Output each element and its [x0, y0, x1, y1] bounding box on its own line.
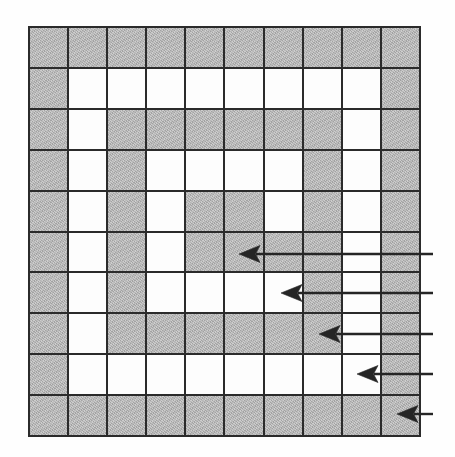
grid-cell-r1-c6 — [225, 28, 264, 69]
grid-cell-r5-c2 — [69, 192, 108, 233]
grid-cell-r2-c8 — [304, 69, 343, 110]
grid-cell-r4-c6 — [225, 151, 264, 192]
grid-cell-r8-c10 — [382, 314, 421, 355]
grid-cell-r9-c6 — [225, 355, 264, 396]
grid-cell-r4-c4 — [147, 151, 186, 192]
grid-cell-r3-c2 — [69, 110, 108, 151]
grid-cell-r5-c6 — [225, 192, 264, 233]
grid-cell-r7-c9 — [343, 273, 382, 314]
grid-cell-r6-c3 — [108, 233, 147, 274]
grid-cell-r10-c10 — [382, 396, 421, 437]
grid-cell-r3-c5 — [186, 110, 225, 151]
grid-cell-r6-c6 — [225, 233, 264, 274]
grid-cell-r1-c9 — [343, 28, 382, 69]
grid-cell-r7-c10 — [382, 273, 421, 314]
grid-cell-r3-c4 — [147, 110, 186, 151]
grid-cell-r6-c4 — [147, 233, 186, 274]
grid-cell-r2-c10 — [382, 69, 421, 110]
grid-cell-r1-c2 — [69, 28, 108, 69]
grid-cell-r8-c2 — [69, 314, 108, 355]
grid-cell-r7-c8 — [304, 273, 343, 314]
grid-cell-r1-c3 — [108, 28, 147, 69]
grid-cell-r4-c3 — [108, 151, 147, 192]
grid-cell-r8-c9 — [343, 314, 382, 355]
grid-container — [28, 26, 421, 437]
grid-cell-r10-c7 — [265, 396, 304, 437]
grid-cell-r1-c1 — [30, 28, 69, 69]
grid-cell-r7-c7 — [265, 273, 304, 314]
grid-cell-r8-c4 — [147, 314, 186, 355]
grid-cell-r2-c5 — [186, 69, 225, 110]
grid-cell-r8-c3 — [108, 314, 147, 355]
grid-cell-r3-c9 — [343, 110, 382, 151]
grid-cell-r5-c4 — [147, 192, 186, 233]
grid-cell-r3-c1 — [30, 110, 69, 151]
grid-cell-r7-c6 — [225, 273, 264, 314]
grid-cell-r9-c2 — [69, 355, 108, 396]
grid-cell-r1-c5 — [186, 28, 225, 69]
grid-cell-r10-c2 — [69, 396, 108, 437]
grid-cell-r3-c7 — [265, 110, 304, 151]
grid-cell-r9-c10 — [382, 355, 421, 396]
grid-cell-r10-c3 — [108, 396, 147, 437]
grid-cell-r6-c9 — [343, 233, 382, 274]
grid-cell-r1-c7 — [265, 28, 304, 69]
grid-cell-r9-c9 — [343, 355, 382, 396]
grid-cell-r2-c7 — [265, 69, 304, 110]
grid-cell-r8-c7 — [265, 314, 304, 355]
grid-cell-r6-c5 — [186, 233, 225, 274]
grid-cell-r1-c8 — [304, 28, 343, 69]
grid-cell-r2-c6 — [225, 69, 264, 110]
grid-cell-r4-c10 — [382, 151, 421, 192]
grid-cell-r9-c8 — [304, 355, 343, 396]
grid-cell-r5-c10 — [382, 192, 421, 233]
grid-cell-r10-c5 — [186, 396, 225, 437]
figure-canvas — [0, 0, 455, 457]
grid-cell-r8-c6 — [225, 314, 264, 355]
grid-cell-r6-c8 — [304, 233, 343, 274]
grid-cell-r9-c5 — [186, 355, 225, 396]
grid-cell-r2-c4 — [147, 69, 186, 110]
grid-cell-r4-c5 — [186, 151, 225, 192]
grid-cell-r4-c1 — [30, 151, 69, 192]
cell-grid — [28, 26, 421, 437]
grid-cell-r10-c8 — [304, 396, 343, 437]
grid-cell-r6-c1 — [30, 233, 69, 274]
grid-cell-r2-c1 — [30, 69, 69, 110]
grid-cell-r10-c1 — [30, 396, 69, 437]
grid-cell-r5-c7 — [265, 192, 304, 233]
grid-cell-r2-c2 — [69, 69, 108, 110]
grid-cell-r3-c8 — [304, 110, 343, 151]
grid-cell-r9-c7 — [265, 355, 304, 396]
grid-cell-r2-c9 — [343, 69, 382, 110]
grid-cell-r7-c1 — [30, 273, 69, 314]
grid-cell-r10-c4 — [147, 396, 186, 437]
grid-cell-r3-c10 — [382, 110, 421, 151]
grid-cell-r4-c8 — [304, 151, 343, 192]
grid-cell-r6-c7 — [265, 233, 304, 274]
grid-cell-r10-c6 — [225, 396, 264, 437]
grid-cell-r8-c8 — [304, 314, 343, 355]
grid-cell-r7-c4 — [147, 273, 186, 314]
grid-cell-r4-c7 — [265, 151, 304, 192]
grid-cell-r2-c3 — [108, 69, 147, 110]
grid-cell-r5-c9 — [343, 192, 382, 233]
grid-cell-r9-c3 — [108, 355, 147, 396]
grid-cell-r6-c10 — [382, 233, 421, 274]
grid-cell-r8-c1 — [30, 314, 69, 355]
grid-cell-r9-c4 — [147, 355, 186, 396]
grid-cell-r3-c6 — [225, 110, 264, 151]
grid-cell-r6-c2 — [69, 233, 108, 274]
grid-cell-r10-c9 — [343, 396, 382, 437]
grid-cell-r8-c5 — [186, 314, 225, 355]
grid-cell-r1-c10 — [382, 28, 421, 69]
grid-cell-r7-c2 — [69, 273, 108, 314]
grid-cell-r4-c2 — [69, 151, 108, 192]
grid-cell-r5-c3 — [108, 192, 147, 233]
grid-cell-r5-c1 — [30, 192, 69, 233]
grid-cell-r3-c3 — [108, 110, 147, 151]
grid-cell-r5-c5 — [186, 192, 225, 233]
grid-cell-r7-c5 — [186, 273, 225, 314]
grid-cell-r4-c9 — [343, 151, 382, 192]
grid-cell-r1-c4 — [147, 28, 186, 69]
